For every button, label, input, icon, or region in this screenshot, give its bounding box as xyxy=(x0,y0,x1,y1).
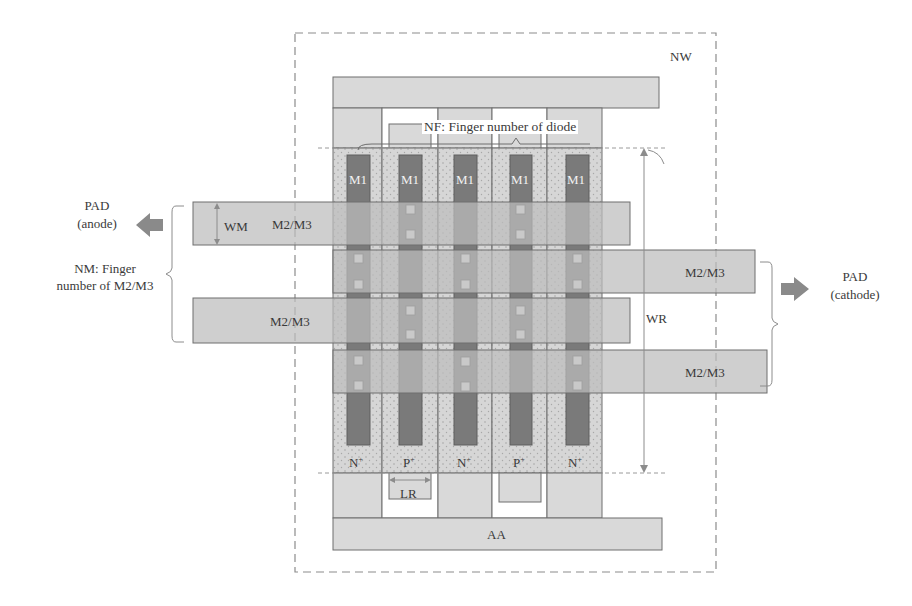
cathode-arrow-icon xyxy=(781,277,809,301)
m1-label-5: M1 xyxy=(567,173,585,186)
nf-annotation: NF: Finger number of diode xyxy=(422,120,578,134)
wr-label: WR xyxy=(646,312,667,325)
m1-label-1: M1 xyxy=(349,173,367,186)
m2m3-label-2: M2/M3 xyxy=(685,266,725,279)
m2m3-label-1: M2/M3 xyxy=(272,218,312,231)
doping-label-5: N+ xyxy=(568,456,582,469)
pad-cathode-label: PAD (cathode) xyxy=(815,268,895,304)
active-top-bar xyxy=(333,77,659,108)
nm-annotation: NM: Finger number of M2/M3 xyxy=(40,260,170,294)
doping-label-4: P+ xyxy=(513,456,525,469)
layout-drawing xyxy=(0,0,912,606)
doping-label-1: N+ xyxy=(349,456,363,469)
aa-label: AA xyxy=(487,528,506,541)
pad-anode-label: PAD (anode) xyxy=(62,197,132,233)
m2m3-label-4: M2/M3 xyxy=(685,366,725,379)
anode-arrow-icon xyxy=(136,213,163,237)
nwell-label: NW xyxy=(670,50,692,63)
lr-label: LR xyxy=(400,487,417,500)
m1-label-3: M1 xyxy=(456,173,474,186)
doping-label-3: N+ xyxy=(457,456,471,469)
m2m3-label-3: M2/M3 xyxy=(270,315,310,328)
m1-label-2: M1 xyxy=(401,173,419,186)
bottom-stubs xyxy=(333,473,602,518)
wm-label: WM xyxy=(224,220,248,233)
doping-label-2: P+ xyxy=(403,456,415,469)
m1-label-4: M1 xyxy=(511,173,529,186)
